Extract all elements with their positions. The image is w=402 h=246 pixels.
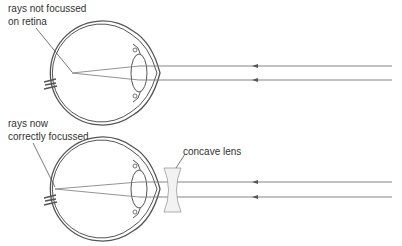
concave-lens [164, 154, 185, 212]
eye-bottom [33, 137, 392, 241]
eye-diagram [0, 0, 402, 246]
arrow-icon [252, 195, 258, 199]
eye-top [36, 21, 392, 125]
arrow-icon [252, 78, 258, 82]
arrow-icon [252, 64, 258, 68]
arrow-icon [252, 180, 258, 184]
